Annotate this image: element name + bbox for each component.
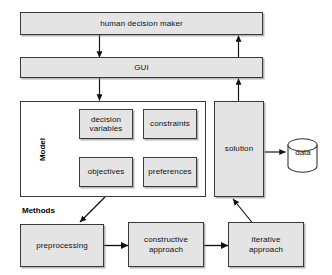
node-decision-variables[interactable]: decision variables [79,109,133,139]
node-constructive-approach-label: constructive approach [144,235,188,254]
node-constructive-approach[interactable]: constructive approach [128,222,204,267]
node-constructive-approach-line2: approach [149,245,183,254]
node-gui-label: GUI [134,63,149,72]
diagram-canvas: human decision maker GUI Model decision … [0,0,332,275]
node-objectives[interactable]: objectives [79,157,133,187]
node-decision-variables-label: decision variables [90,115,123,134]
node-solution[interactable]: solution [214,101,264,197]
node-constraints-label: constraints [150,119,190,128]
node-preprocessing-label: preprocessing [36,241,88,250]
node-preferences-label: preferences [148,167,191,176]
node-iterative-approach-line2: approach [249,245,283,254]
group-methods-label: Methods [22,206,55,215]
node-human-decision-maker[interactable]: human decision maker [20,12,263,35]
node-human-decision-maker-label: human decision maker [100,19,182,28]
node-preprocessing[interactable]: preprocessing [20,224,104,267]
node-iterative-approach-label: iterative approach [249,235,283,254]
node-iterative-approach-line1: iterative [252,235,281,244]
node-constraints[interactable]: constraints [143,109,197,139]
node-constructive-approach-line1: constructive [144,235,188,244]
node-data-label: data [288,148,318,157]
node-decision-variables-line2: variables [90,124,123,133]
node-gui[interactable]: GUI [20,57,263,78]
node-preferences[interactable]: preferences [143,157,197,187]
node-solution-label: solution [225,144,253,153]
node-decision-variables-line1: decision [91,115,121,124]
node-objectives-label: objectives [88,167,125,176]
arrow-model-to-preprocessing [80,197,105,222]
node-iterative-approach[interactable]: iterative approach [228,222,304,267]
group-model-label: Model [38,135,47,165]
